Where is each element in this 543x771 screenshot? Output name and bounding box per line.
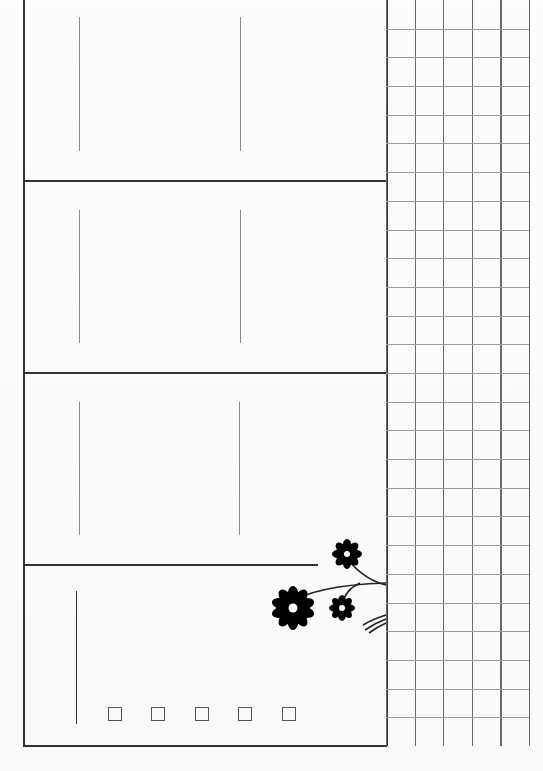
grid-row-line [386,230,529,231]
grid-row-line [386,430,529,431]
checkbox-4[interactable] [238,707,252,721]
grid-row-line [386,516,529,517]
grid-row-line [386,316,529,317]
grid-row-line [386,86,529,87]
section-3-guide-left [79,402,80,535]
grid-row-line [386,287,529,288]
grid-row-line [386,373,529,374]
section-2-guide-right [240,210,241,343]
grid-row-line [386,143,529,144]
daisy-flowers-icon [265,535,390,640]
grid-row-line [386,115,529,116]
section-3-guide-right [239,402,240,535]
grid-row-line [386,488,529,489]
grid-row-line [386,631,529,632]
section-divider-1 [23,180,387,182]
grid-row-line [386,29,529,30]
section-4-guide [76,591,77,724]
grid-row-line [386,57,529,58]
grid-row-line [386,660,529,661]
grid-row-line [386,603,529,604]
section-divider-2 [23,372,387,374]
bottom-border [23,745,387,747]
section-2-guide-left [79,210,80,343]
checkbox-5[interactable] [282,707,296,721]
grid-row-line [386,201,529,202]
checkbox-3[interactable] [195,707,209,721]
section-1-guide-left [79,17,80,151]
section-1-guide-right [240,17,241,151]
grid-row-line [386,545,529,546]
notes-grid [386,0,529,746]
grid-row-line [386,258,529,259]
grid-row-line [386,689,529,690]
grid-row-line [386,172,529,173]
checkbox-1[interactable] [108,707,122,721]
grid-row-line [386,344,529,345]
grid-column-line [529,0,530,746]
grid-row-line [386,459,529,460]
checkbox-2[interactable] [151,707,165,721]
planner-page [0,0,543,771]
grid-row-line [386,717,529,718]
grid-row-line [386,402,529,403]
grid-row-line [386,574,529,575]
